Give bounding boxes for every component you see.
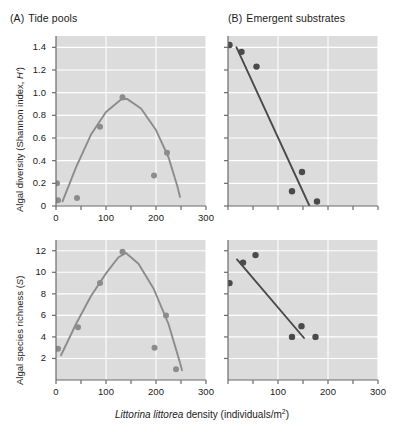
y-tick-label: 2 (8, 352, 46, 363)
panel-b-title-text: Emergent substrates (246, 12, 345, 24)
x-tick-label: 200 (136, 212, 176, 223)
chart-tide-pools-diversity (56, 36, 206, 206)
x-tick-label: 300 (358, 386, 398, 397)
x-tick-label: 100 (258, 386, 298, 397)
x-tick-label: 0 (36, 386, 76, 397)
x-tick-label: 300 (186, 212, 226, 223)
y-tick-label: 0.6 (8, 132, 46, 143)
panel-b-tag: (B) (228, 12, 242, 24)
panel-a-tag: (A) (10, 12, 24, 24)
panel-b-title: (B)Emergent substrates (228, 12, 345, 24)
y-tick-label: 6 (8, 309, 46, 320)
y-tick-label: 0 (8, 200, 46, 211)
x-tick-label: 100 (86, 212, 126, 223)
x-axis-caption-close: ) (286, 409, 289, 420)
y-tick-label: 1.0 (8, 87, 46, 98)
panel-a-title: (A)Tide pools (10, 12, 77, 24)
y-tick-label: 1.2 (8, 64, 46, 75)
x-axis-caption-species: Littorina littorea (115, 409, 183, 420)
y-tick-label: 0.2 (8, 177, 46, 188)
chart-emergent-diversity (228, 36, 378, 206)
x-tick-label: 0 (36, 212, 76, 223)
chart-emergent-richness (228, 240, 378, 380)
x-axis-caption-rest: density (individuals/m (183, 409, 281, 420)
x-tick-label: 300 (186, 386, 226, 397)
figure-root: (A)Tide pools (B)Emergent substrates Alg… (0, 0, 404, 435)
chart-tide-pools-richness (56, 240, 206, 380)
y-tick-label: 10 (8, 266, 46, 277)
y-tick-label: 0.4 (8, 155, 46, 166)
x-tick-label: 200 (308, 386, 348, 397)
y-tick-label: 4 (8, 331, 46, 342)
y-tick-label: 1.4 (8, 41, 46, 52)
x-axis-caption: Littorina littorea density (individuals/… (0, 408, 404, 420)
panel-a-title-text: Tide pools (28, 12, 77, 24)
x-tick-label: 100 (86, 386, 126, 397)
y-tick-label: 12 (8, 245, 46, 256)
y-tick-label: 8 (8, 288, 46, 299)
y-tick-label: 0.8 (8, 109, 46, 120)
x-tick-label: 200 (136, 386, 176, 397)
